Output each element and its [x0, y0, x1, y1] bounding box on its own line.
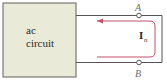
circuit-diagram: ac circuit A B I n — [0, 0, 167, 81]
box-label-line2: circuit — [26, 37, 54, 49]
terminal-a-label: A — [134, 2, 142, 13]
terminal-a — [137, 13, 142, 18]
current-label: I — [139, 29, 143, 41]
terminal-b — [137, 60, 142, 65]
terminal-b-label: B — [135, 68, 141, 79]
current-arrow-icon — [97, 19, 103, 24]
current-subscript: n — [144, 36, 148, 44]
box-label-line1: ac — [26, 24, 36, 36]
